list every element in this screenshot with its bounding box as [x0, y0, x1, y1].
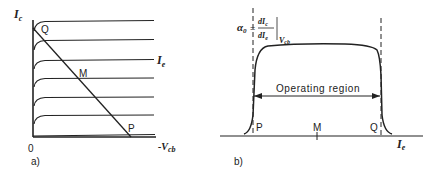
curve-3	[34, 60, 154, 70]
panel-b-alpha-curve: Operating region α0 = dIc dIe Vcb P M Q	[220, 8, 423, 167]
point-q-label: Q	[41, 24, 49, 35]
figure: Ic Q M P Ie 0 -Vcb a) Operating region α…	[0, 0, 437, 175]
point-q-label: Q	[370, 122, 378, 133]
curve-7	[33, 135, 155, 137]
panel-b-caption: b)	[234, 156, 243, 167]
point-p-label: P	[256, 122, 263, 133]
svg-text:Vcb: Vcb	[279, 36, 290, 45]
panel-a-caption: a)	[31, 156, 40, 167]
svg-text:dIc: dIc	[258, 17, 268, 27]
point-m-label: M	[79, 68, 87, 79]
panel-a-characteristics: Ic Q M P Ie 0 -Vcb a)	[13, 7, 176, 167]
svg-text:dIe: dIe	[258, 31, 268, 41]
svg-text:=: =	[250, 23, 255, 33]
y-axis-label: Ic	[13, 7, 23, 23]
output-curves	[33, 21, 155, 137]
alpha-definition-label: α0 = dIc dIe Vcb	[237, 17, 290, 45]
operating-region-label: Operating region	[276, 83, 360, 94]
origin-label: 0	[28, 143, 34, 154]
curve-family-label: Ie	[156, 53, 166, 69]
load-line	[33, 28, 131, 137]
curve-6	[34, 115, 154, 124]
point-m-label: M	[313, 122, 321, 133]
curve-1	[34, 21, 154, 32]
curve-5	[34, 97, 154, 106]
x-axis-label: -Vcb	[158, 141, 176, 154]
x-axis-label: Ie	[396, 137, 406, 152]
svg-text:α0: α0	[237, 21, 247, 35]
point-p-label: P	[128, 123, 135, 134]
curve-4	[34, 78, 154, 87]
